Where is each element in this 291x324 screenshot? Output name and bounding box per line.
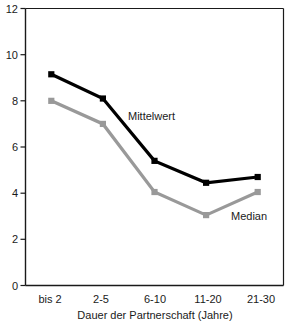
series-label-median: Median <box>231 210 267 222</box>
data-point-marker <box>203 180 209 186</box>
x-tick-label-bis-2: bis 2 <box>38 293 61 305</box>
y-tick-label-0: 0 <box>12 280 18 292</box>
x-tick-label-21-30: 21-30 <box>247 293 275 305</box>
y-tick-label-8: 8 <box>12 95 18 107</box>
chart-container: 12 10 8 6 4 2 0 Mittelwert Median bis 2 … <box>0 0 291 324</box>
y-tick-label-10: 10 <box>6 49 18 61</box>
x-tick-label-2-5: 2-5 <box>93 293 109 305</box>
y-tick-label-4: 4 <box>12 187 18 199</box>
x-tick-label-11-20: 11-20 <box>194 293 221 305</box>
data-point-marker <box>100 95 106 101</box>
y-tick-label-12: 12 <box>6 3 18 15</box>
data-point-marker <box>48 98 54 104</box>
data-point-marker <box>255 189 261 195</box>
chart-background <box>0 0 291 324</box>
data-point-marker <box>151 158 157 164</box>
data-point-marker <box>255 174 261 180</box>
line-chart: 12 10 8 6 4 2 0 Mittelwert Median bis 2 … <box>0 0 291 324</box>
data-point-marker <box>203 212 209 218</box>
data-point-marker <box>100 121 106 127</box>
y-tick-label-6: 6 <box>12 141 18 153</box>
data-point-marker <box>151 189 157 195</box>
series-label-mittelwert: Mittelwert <box>128 110 175 122</box>
data-point-marker <box>48 71 54 77</box>
y-tick-label-2: 2 <box>12 233 18 245</box>
x-tick-label-6-10: 6-10 <box>144 293 166 305</box>
x-axis-title: Dauer der Partnerschaft (Jahre) <box>77 309 232 321</box>
